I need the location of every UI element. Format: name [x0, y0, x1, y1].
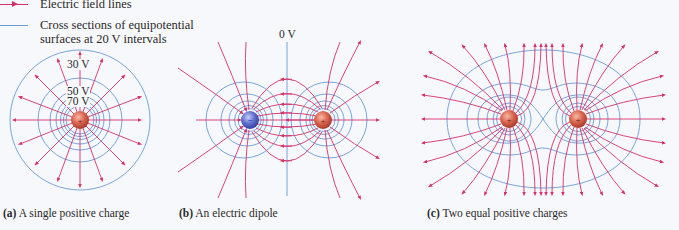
panel-b-field-lines	[178, 42, 378, 198]
field-diagram: +	[0, 0, 679, 230]
potential-label-0v: 0 V	[278, 29, 297, 40]
minus-sign-icon: −	[247, 115, 252, 125]
plus-sign-icon: +	[506, 115, 511, 125]
panel-a-single-charge: +	[10, 50, 150, 190]
potential-label-30v: 30 V	[66, 59, 90, 70]
caption-tag: (b)	[179, 207, 193, 219]
plus-sign-icon: +	[77, 116, 82, 126]
plus-sign-icon: +	[320, 116, 325, 126]
caption-tag: (c)	[427, 207, 440, 219]
caption-text: Two equal positive charges	[440, 207, 568, 219]
caption-b: (b) An electric dipole	[179, 207, 278, 219]
caption-c: (c) Two equal positive charges	[427, 207, 568, 219]
caption-a: (a) A single positive charge	[3, 207, 129, 219]
caption-tag: (a)	[3, 207, 16, 219]
potential-label-70v: 70 V	[66, 96, 90, 107]
panel-b-dipole: − +	[178, 42, 378, 198]
panel-c-two-positive: + +	[423, 45, 664, 194]
panel-b-equipotentials	[206, 42, 367, 196]
plus-sign-icon: +	[575, 115, 580, 125]
caption-text: A single positive charge	[16, 207, 129, 219]
caption-text: An electric dipole	[193, 207, 278, 219]
